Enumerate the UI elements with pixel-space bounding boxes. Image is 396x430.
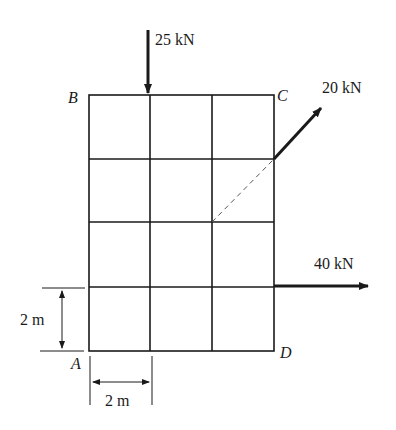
corner-label-c: C xyxy=(277,88,288,104)
dimension-vertical xyxy=(40,288,85,351)
force-label-40kn: 40 kN xyxy=(314,256,354,272)
force-label-20kn: 20 kN xyxy=(322,80,362,96)
corner-label-a: A xyxy=(71,356,81,372)
line-of-action-dashed xyxy=(212,159,274,222)
dimension-label-vertical: 2 m xyxy=(20,312,44,328)
plate-grid xyxy=(89,95,274,351)
grid-diagram xyxy=(0,0,396,430)
force-label-25kn: 25 kN xyxy=(155,32,195,48)
corner-label-d: D xyxy=(280,345,292,361)
dimension-label-horizontal: 2 m xyxy=(105,393,129,409)
corner-label-b: B xyxy=(68,90,78,106)
force-arrow-20kn xyxy=(274,108,321,159)
